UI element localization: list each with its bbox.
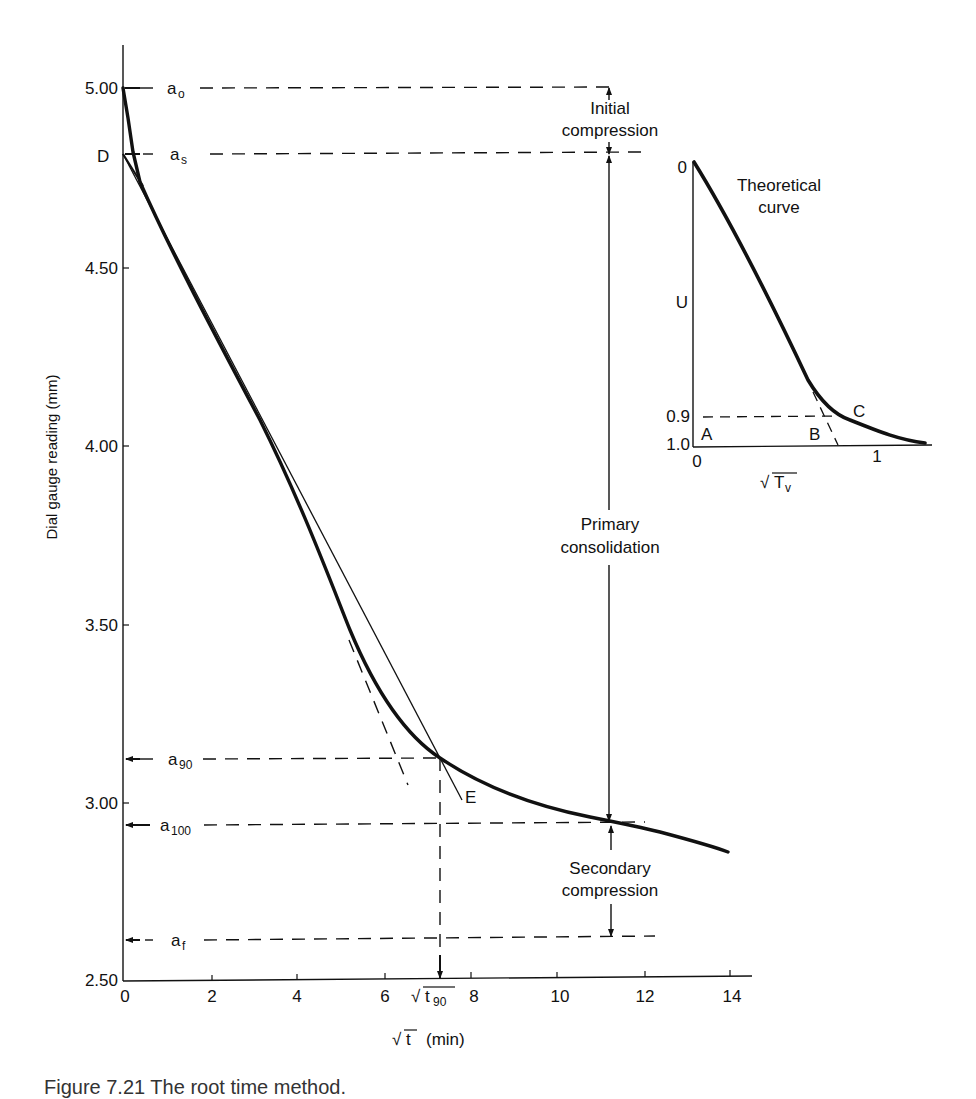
af-sub: f [182,939,186,953]
figure-caption: Figure 7.21 The root time method. [44,1076,346,1099]
x-axis [123,976,752,981]
x-axis-title: √ t (min) [392,1030,465,1049]
radical-sign: √ [392,1030,402,1049]
inset-y-tick: 1.0 [666,435,690,454]
x-tick-label: 10 [551,987,570,1006]
x-axis-unit: (min) [426,1030,465,1049]
a90-label: a 90 [168,750,193,772]
inset-09-line [703,416,842,417]
label-line: Primary [581,515,640,534]
secondary-compression-label: Secondary compression [562,859,658,900]
y-tick-label: 3.50 [85,616,118,635]
inset-y-tick: 0.9 [666,407,690,426]
a100-label: a 100 [160,816,191,838]
label-line: consolidation [560,538,659,557]
axis-arrows [125,88,440,978]
a0-main: a [167,79,177,98]
a0-label: a o [167,79,185,101]
consolidation-curve [123,88,728,852]
label-line: compression [562,881,658,900]
y-tick-label: 2.50 [85,971,118,990]
a100-line [204,822,645,825]
y-tick-label: 4.50 [85,259,118,278]
inset-title-line: Theoretical [737,176,821,195]
y-tick-label: 3.00 [85,794,118,813]
y-axis-title: Dial gauge reading (mm) [43,374,60,539]
af-main: a [171,931,181,950]
as-label: a s [170,145,187,167]
inset-y-tick: 0 [678,158,687,177]
dimension-arrows [609,88,611,936]
point-b-label: B [809,425,820,444]
a100-main: a [160,816,170,835]
x-tick-label: 4 [292,987,301,1006]
inset-x-tick: 0 [692,452,701,471]
inset-x-var: T [774,473,784,492]
x-tick-label: 6 [380,987,389,1006]
t90-label: √ t 90 [411,987,455,1009]
x-tick-label: 8 [469,987,478,1006]
inset-y-title: U [676,293,688,312]
inset-x-sub: v [785,481,791,495]
inset-x-axis [693,445,932,447]
a0-line [200,87,616,88]
point-c-label: C [853,402,865,421]
y-tick-label: 5.00 [85,79,118,98]
as-line [210,152,642,154]
x-tick-label: 12 [636,987,655,1006]
a90-sub: 90 [179,758,193,772]
reference-lines [140,87,655,960]
x-tick-label: 0 [120,987,129,1006]
a90-main: a [168,750,178,769]
point-a-label: A [701,425,713,444]
a90-line [203,758,440,759]
inset-title-line: curve [758,198,800,217]
label-line: Secondary [569,859,651,878]
y-tick-label: 4.00 [85,437,118,456]
inset-theoretical-curve: 0 U 0.9 1.0 0 1 A B C Theoretical curve … [666,158,932,495]
line-DE [123,154,462,800]
initial-tangent [349,640,408,785]
inset-x-tick: 1 [872,447,881,466]
radical-sign: √ [411,987,421,1006]
a0-sub: o [178,87,185,101]
t90-sub: 90 [433,995,447,1009]
x-tick-label: 14 [723,987,742,1006]
label-line: compression [562,121,658,140]
primary-consolidation-label: Primary consolidation [560,515,659,557]
t90-t: t [425,987,430,1006]
initial-compression-label: Initial compression [562,99,658,140]
x-tick-label: 2 [207,987,216,1006]
af-line [204,936,655,940]
radical-sign: √ [760,473,770,492]
as-main: a [170,145,180,164]
as-sub: s [181,153,187,167]
inset-x-title: √ T v [760,473,797,495]
y-ticks [123,88,129,803]
label-line: Initial [590,99,630,118]
a100-sub: 100 [171,824,191,838]
inset-curve [694,162,925,443]
x-axis-variable: t [406,1030,411,1049]
point-d-label: D [97,147,109,166]
af-label: a f [171,931,186,953]
point-e-label: E [465,788,476,807]
